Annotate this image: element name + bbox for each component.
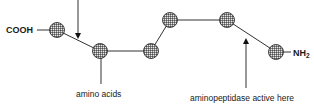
- amino-acid-node: [50, 23, 65, 38]
- cooh-label: COOH: [6, 25, 33, 35]
- aminopeptidase-label: aminopeptidase active here: [190, 93, 294, 103]
- amino-acid-node: [163, 13, 178, 28]
- amino-acid-node: [220, 13, 235, 28]
- down-arrow-icon: [75, 33, 81, 39]
- up-arrow-icon: [243, 38, 249, 44]
- nh2-subscript: 2: [306, 52, 310, 59]
- bond-5-6: [227, 20, 276, 52]
- peptide-diagram: COOH NH2 amino acids aminopeptidase acti…: [0, 0, 314, 106]
- amino-acid-node: [144, 44, 159, 59]
- amino-acid-node: [93, 44, 108, 59]
- amino-acid-node: [269, 45, 284, 60]
- nh2-label: NH2: [293, 48, 310, 59]
- amino-acids-label: amino acids: [76, 89, 121, 99]
